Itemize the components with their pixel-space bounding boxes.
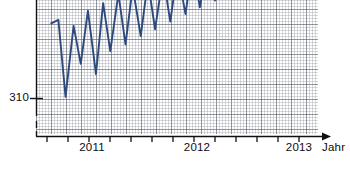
x-axis-tick-label-2011: 2011 <box>72 141 112 153</box>
y-tick-label-wrap: 310 <box>0 91 29 105</box>
x-axis-arrowhead <box>322 133 331 141</box>
x-axis-tick-label-2013: 2013 <box>279 141 319 153</box>
x-axis-tick-label-2012: 2012 <box>177 141 217 153</box>
x-axis-title: Jahr <box>322 141 345 153</box>
y-axis-tick-label-310: 310 <box>9 91 29 103</box>
chart-figure: 310 2011 2012 2013 Jahr <box>0 0 350 175</box>
